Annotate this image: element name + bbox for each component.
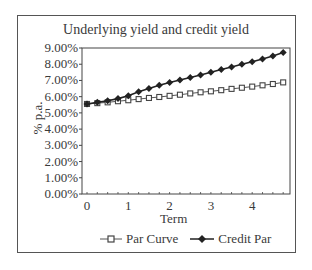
x-tick-label: 4 (249, 198, 256, 213)
square-marker-icon (219, 88, 224, 93)
plot-border (82, 48, 290, 194)
diamond-marker-icon (197, 72, 204, 79)
diamond-marker-icon (280, 49, 287, 56)
square-marker-icon (100, 234, 122, 244)
y-tick-label: 7.00% (44, 72, 78, 87)
diamond-marker-icon (166, 79, 173, 86)
y-tick-label: 6.00% (44, 89, 78, 104)
square-marker-icon (270, 82, 275, 87)
square-marker-icon (136, 97, 141, 102)
diamond-marker-icon (249, 58, 256, 65)
diamond-marker-icon (238, 61, 245, 68)
diamond-marker-icon (176, 76, 183, 83)
y-tick-label: 4.00% (44, 121, 78, 136)
diamond-marker-icon (269, 53, 276, 60)
y-tick-label: 1.00% (44, 170, 78, 185)
square-marker-icon (281, 80, 286, 85)
y-tick-label: 9.00% (44, 40, 78, 55)
x-tick-label: 2 (166, 198, 173, 213)
square-marker-icon (198, 90, 203, 95)
square-marker-icon (260, 83, 265, 88)
square-marker-icon (157, 94, 162, 99)
square-marker-icon (229, 86, 234, 91)
diamond-marker-icon (187, 74, 194, 81)
plot-area: 0.00%1.00%2.00%3.00%4.00%5.00%6.00%7.00%… (0, 0, 312, 270)
square-marker-icon (239, 85, 244, 90)
square-marker-icon (250, 84, 255, 89)
diamond-marker-icon (190, 234, 214, 244)
diamond-marker-icon (135, 88, 142, 95)
square-marker-icon (208, 89, 213, 94)
y-tick-label: 8.00% (44, 56, 78, 71)
diamond-marker-icon (156, 82, 163, 89)
diamond-marker-icon (145, 85, 152, 92)
square-marker-icon (146, 95, 151, 100)
y-tick-label: 3.00% (44, 137, 78, 152)
legend-label: Par Curve (126, 231, 178, 247)
square-marker-icon (177, 92, 182, 97)
diamond-marker-icon (228, 63, 235, 70)
x-tick-label: 3 (208, 198, 215, 213)
diamond-marker-icon (207, 69, 214, 76)
x-tick-label: 1 (125, 198, 132, 213)
legend-item-par-curve: Par Curve (100, 231, 178, 247)
legend-label: Credit Par (218, 231, 271, 247)
square-marker-icon (188, 91, 193, 96)
y-tick-label: 0.00% (44, 186, 78, 201)
x-tick-label: 0 (84, 198, 91, 213)
square-marker-icon (167, 93, 172, 98)
legend: Par Curve Credit Par (100, 231, 283, 247)
legend-item-credit-par: Credit Par (190, 231, 271, 247)
y-tick-label: 5.00% (44, 105, 78, 120)
diamond-marker-icon (218, 66, 225, 73)
diamond-marker-icon (259, 56, 266, 63)
y-tick-label: 2.00% (44, 154, 78, 169)
